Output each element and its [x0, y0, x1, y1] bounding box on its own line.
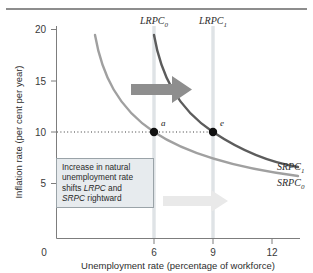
shift-arrow-lower [163, 190, 228, 212]
point-a-marker [150, 128, 158, 136]
y-tick-label-5: 5 [40, 178, 46, 189]
phillips-curve-figure: 20 15 10 5 0 6 9 12 Unemployment rate (p… [0, 0, 313, 273]
callout-line-3-post: and [106, 183, 122, 193]
y-tick-label-10: 10 [35, 127, 47, 138]
shift-arrow-upper [131, 76, 192, 103]
callout-line-4-italic: SRPC [62, 193, 85, 203]
y-tick-label-20: 20 [35, 24, 47, 35]
x-tick-label-12: 12 [266, 247, 278, 258]
y-axis-title: Inflation rate (per cent per year) [13, 65, 24, 198]
chart-svg: 20 15 10 5 0 6 9 12 Unemployment rate (p… [0, 0, 313, 273]
point-a-label: a [161, 118, 166, 128]
x-tick-label-9: 9 [210, 247, 216, 258]
point-e-marker [209, 128, 217, 136]
lrpc0-label-subscript: 0 [164, 21, 168, 29]
srpc0-curve [95, 35, 298, 176]
callout-line-4-post: rightward [85, 193, 121, 203]
callout-line-2: unemployment rate [62, 172, 149, 182]
srpc1-label-subscript: 1 [301, 167, 305, 175]
lrpc1-label-text: LRPC [198, 15, 224, 26]
x-tick-label-6: 6 [151, 247, 157, 258]
callout-line-3-italic: LRPC [84, 183, 106, 193]
lrpc0-label-text: LRPC [139, 15, 165, 26]
x-tick-label-0: 0 [41, 247, 47, 258]
srpc1-curve [154, 35, 298, 167]
callout-line-3: shifts LRPC and [62, 183, 149, 193]
callout-line-4: SRPC rightward [62, 193, 149, 203]
callout-line-1: Increase in natural [62, 162, 149, 172]
x-axis-title: Unemployment rate (percentage of workfor… [81, 260, 275, 271]
callout-line-3-pre: shifts [62, 183, 84, 193]
point-e-label: e [220, 118, 224, 128]
lrpc1-label-subscript: 1 [223, 21, 227, 29]
callout-box: Increase in natural unemployment rate sh… [56, 158, 154, 208]
y-tick-label-15: 15 [35, 76, 47, 87]
srpc1-label-text: SRPC [277, 161, 301, 172]
srpc0-label: SRPC0 [277, 177, 305, 191]
srpc0-label-subscript: 0 [301, 183, 305, 191]
srpc0-label-text: SRPC [277, 177, 301, 188]
